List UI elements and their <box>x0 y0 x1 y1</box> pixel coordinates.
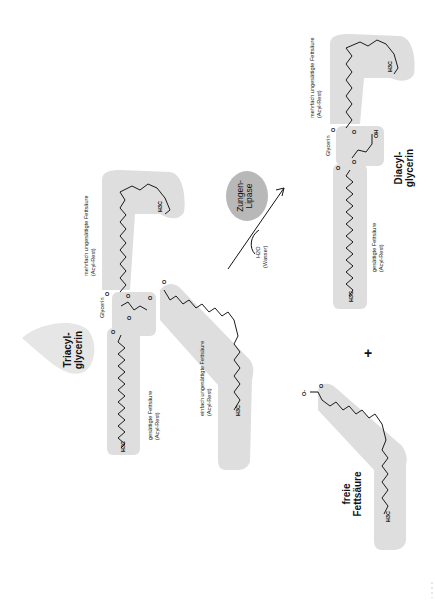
h3c-terminal: H3C <box>348 291 354 302</box>
oxygen-atom: O <box>331 127 336 133</box>
h3c-terminal: H3C <box>387 61 393 72</box>
glycerin-label: Glycerin <box>325 135 331 156</box>
saturated-acid-label-line1: gesättigte Fettsäure <box>371 223 377 272</box>
triacylglycerin-molecule: Triacyl- glycerin Glycerin O O H3C gesät… <box>22 170 253 470</box>
oxygen-atom: O <box>352 159 357 165</box>
reaction-step: Zungen- Lipase H2O (Wasser) <box>226 171 284 269</box>
oxygen-atom: O <box>148 295 153 301</box>
h3c-terminal: H3C <box>120 441 126 452</box>
h3c-terminal: H3C <box>157 201 163 212</box>
diacylglycerin-molecule: O O H3C mehrfach ungesättigte Fettsäure … <box>309 34 415 309</box>
oxygen-atom: O <box>319 383 324 389</box>
diacylglycerin-name-line1: Diacyl- <box>393 152 404 185</box>
free-fatty-acid-name-line1: freie <box>341 483 352 505</box>
oxygen-atom: O <box>126 293 131 299</box>
oxygen-atom: O <box>127 315 132 321</box>
monounsaturated-acid-label-line1: einfach ungesättigte Fettsäure <box>199 341 205 416</box>
oxygen-atom: O <box>336 165 341 171</box>
polyunsaturated-acid-label-line1: mehrfach ungesättigte Fettsäure <box>309 37 315 118</box>
oxygen-atom: O <box>162 279 167 285</box>
carboxylate-group: O- <box>301 390 307 396</box>
hydroxyl-group: OH <box>373 130 379 138</box>
lipase-reaction-diagram: Triacyl- glycerin Glycerin O O H3C gesät… <box>0 0 435 600</box>
polyunsaturated-acid-label-line1: mehrfach ungesättigte Fettsäure <box>83 195 89 276</box>
water-formula: H2O <box>255 246 261 258</box>
free-fatty-acid-name-line2: Fettsäure <box>352 471 363 516</box>
polyunsaturated-acid-label-line2: (Acyl-Rest) <box>316 90 322 118</box>
oxygen-atom: O <box>352 129 357 135</box>
polyunsaturated-acid-label-line2: (Acyl-Rest) <box>90 248 96 276</box>
oxygen-atom: O <box>111 329 116 335</box>
h3c-terminal: H3C <box>385 511 391 522</box>
polyunsaturated-chain-shade <box>330 34 415 124</box>
enzyme-name-line2: Lipase <box>244 183 254 208</box>
triacylglycerin-name-line2: glycerin <box>73 331 84 369</box>
free-fatty-acid-molecule: O- O H3C freie Fettsäure <box>301 383 407 550</box>
plus-sign: + <box>364 345 372 361</box>
monounsaturated-acid-label-line2: (Acyl-Rest) <box>206 388 212 416</box>
diacylglycerin-name-line2: glycerin <box>404 149 415 187</box>
free-fatty-acid-shade <box>318 384 407 550</box>
glycerin-label: Glycerin <box>99 297 105 318</box>
saturated-acid-label-line2: (Acyl-Rest) <box>378 244 384 272</box>
triacylglycerin-name-line1: Triacyl- <box>62 332 73 367</box>
oxygen-atom: O <box>105 291 110 297</box>
monounsaturated-chain-shade <box>160 284 253 470</box>
saturated-acid-label-line1: gesättigte Fettsäure <box>147 391 153 440</box>
water-name: (Wasser) <box>262 245 268 268</box>
h3c-terminal: H3C <box>235 405 241 416</box>
saturated-acid-label-line2: (Acyl-Rest) <box>154 412 160 440</box>
